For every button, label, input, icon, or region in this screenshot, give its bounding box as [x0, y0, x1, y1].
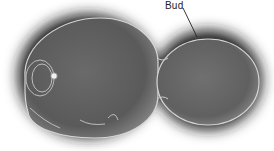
label-leader-line [183, 8, 197, 37]
micrograph: Bud [0, 0, 274, 151]
bud-cell [157, 39, 259, 125]
bud-label: Bud [165, 0, 183, 11]
yeast-cell-graphic [0, 0, 274, 151]
bud-scar-dot [51, 73, 57, 79]
